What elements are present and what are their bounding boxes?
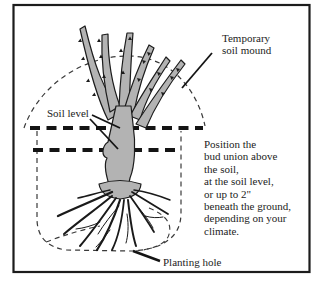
planting-hole-label: Planting hole	[163, 256, 221, 268]
temporary-soil-mound-label-line2: soil mound	[222, 44, 272, 56]
soil-level-label: Soil level	[47, 107, 89, 119]
annotation-line: or up to 2"	[204, 188, 251, 200]
annotation-line: Position the	[204, 138, 256, 150]
planting-diagram: Temporary soil mound Soil level Planting…	[0, 0, 321, 288]
annotation-line: the soil,	[204, 163, 239, 175]
diagram-canvas: Temporary soil mound Soil level Planting…	[0, 0, 321, 288]
annotation-line: at the soil level,	[204, 175, 274, 187]
annotation-line: climate.	[204, 225, 239, 237]
annotation-line: bud union above	[204, 150, 277, 162]
annotation-line: beneath the ground,	[204, 200, 291, 212]
temporary-soil-mound-label-line1: Temporary	[222, 32, 271, 44]
annotation-line: depending on your	[204, 212, 287, 224]
